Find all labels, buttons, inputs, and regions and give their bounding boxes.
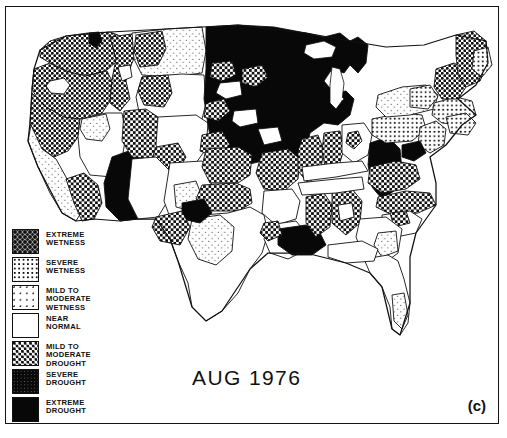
legend-swatch-near-normal (12, 313, 39, 338)
state-kansas (202, 147, 252, 183)
legend-swatch-severe-wetness (12, 257, 39, 282)
legend-item-extreme-wetness[interactable]: EXTREME WETNESS (9, 229, 127, 257)
legend-swatch-severe-drought (12, 369, 39, 394)
legend: EXTREME WETNESS SEVERE WETNESS MILD TO M… (9, 229, 127, 425)
figure-frame: EXTREME WETNESS SEVERE WETNESS MILD TO M… (5, 6, 499, 424)
legend-item-severe-wetness[interactable]: SEVERE WETNESS (9, 257, 127, 285)
legend-item-mild-to-moderate-drought[interactable]: MILD TO MODERATE DROUGHT (9, 341, 127, 369)
state-pennsylvania (372, 113, 426, 143)
legend-swatch-extreme-wetness (12, 229, 39, 254)
legend-swatch-extreme-drought (12, 397, 39, 422)
state-arkansas (262, 189, 300, 225)
figure-page: EXTREME WETNESS SEVERE WETNESS MILD TO M… (0, 0, 507, 438)
legend-swatch-mild-to-moderate-drought (12, 341, 39, 366)
state-virginia (368, 161, 420, 193)
legend-label-severe-drought: SEVERE DROUGHT (46, 369, 86, 388)
area-w-wyoming-wet (138, 75, 172, 107)
legend-swatch-mild-to-moderate-wetness (12, 285, 39, 310)
legend-item-extreme-drought[interactable]: EXTREME DROUGHT (9, 397, 127, 425)
legend-label-mild-to-moderate-wetness: MILD TO MODERATE WETNESS (46, 285, 91, 312)
legend-label-mild-to-moderate-drought: MILD TO MODERATE DROUGHT (46, 341, 91, 368)
legend-label-extreme-wetness: EXTREME WETNESS (46, 229, 85, 248)
legend-label-severe-wetness: SEVERE WETNESS (46, 257, 85, 276)
legend-item-near-normal[interactable]: NEAR NORMAL (9, 313, 127, 341)
legend-item-mild-to-moderate-wetness[interactable]: MILD TO MODERATE WETNESS (9, 285, 127, 313)
speck-2 (341, 98, 344, 101)
panel-label: (c) (468, 397, 486, 414)
state-missouri (256, 149, 300, 191)
map-title: AUG 1976 (192, 366, 301, 390)
area-plains-white-2 (232, 109, 258, 127)
legend-label-near-normal: NEAR NORMAL (46, 313, 81, 332)
speck-1 (334, 89, 337, 92)
legend-label-extreme-drought: EXTREME DROUGHT (46, 397, 86, 416)
legend-item-severe-drought[interactable]: SEVERE DROUGHT (9, 369, 127, 397)
state-arizona (128, 157, 170, 219)
